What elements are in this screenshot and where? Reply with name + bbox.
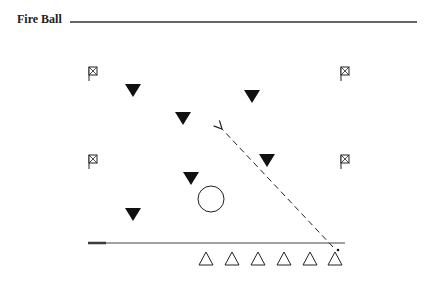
defender-marker	[175, 112, 191, 125]
flag-icon	[89, 155, 97, 169]
attacker-marker	[251, 252, 265, 265]
drill-diagram	[0, 0, 433, 281]
attacker-marker	[199, 252, 213, 265]
flag-icon	[89, 67, 97, 81]
defender-marker	[125, 208, 141, 221]
defender-marker	[244, 90, 260, 103]
attacker-marker	[277, 252, 291, 265]
ball-dot	[337, 249, 340, 252]
ball-circle	[198, 186, 224, 212]
defender-marker	[183, 172, 199, 185]
attacker-marker	[303, 252, 317, 265]
attacker-marker	[225, 252, 239, 265]
pass-arrow	[222, 129, 333, 247]
defender-marker	[125, 84, 141, 97]
attacker-marker	[328, 252, 342, 265]
defender-marker	[259, 154, 275, 167]
flag-icon	[341, 155, 349, 169]
flag-icon	[341, 67, 349, 81]
